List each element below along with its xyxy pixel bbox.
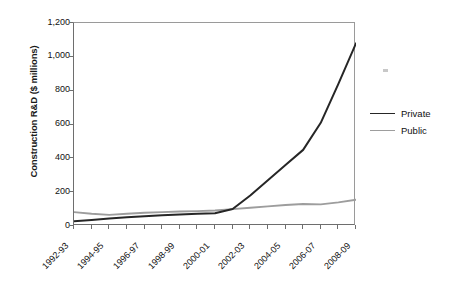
x-tick-mark — [144, 225, 145, 229]
x-tick-mark — [161, 225, 162, 229]
x-tick-mark — [232, 225, 233, 229]
x-tick-mark — [214, 225, 215, 229]
y-tick-label: 0 — [24, 221, 70, 230]
x-tick-mark — [126, 225, 127, 229]
x-tick-label: 2006-07 — [287, 241, 317, 271]
legend-item-private: Private — [370, 105, 455, 122]
x-tick-mark — [73, 225, 74, 229]
x-tick-label: 1992-93 — [40, 241, 70, 271]
x-tick-mark — [267, 225, 268, 229]
x-tick-label: 2004-05 — [252, 241, 282, 271]
x-tick-label: 1994-95 — [75, 241, 105, 271]
x-tick-mark — [320, 225, 321, 229]
x-tick-label: 1996-97 — [111, 241, 141, 271]
plot-area — [73, 22, 355, 225]
x-tick-mark — [196, 225, 197, 229]
x-tick-mark — [179, 225, 180, 229]
y-tick-label: 1,000 — [24, 51, 70, 60]
x-tick-mark — [285, 225, 286, 229]
legend-swatch-public-icon — [370, 130, 395, 131]
y-tick-label: 1,200 — [24, 18, 70, 27]
line-chart: Construction R&D ($ millions) 0200400600… — [0, 0, 455, 292]
legend-swatch-private-icon — [370, 113, 395, 114]
plot-lines — [74, 23, 356, 226]
x-tick-label: 2000-01 — [181, 241, 211, 271]
legend-label-private: Private — [401, 109, 431, 119]
y-tick-label: 600 — [24, 119, 70, 128]
x-tick-label: 1998-99 — [146, 241, 176, 271]
x-tick-mark — [337, 225, 338, 229]
x-tick-mark — [108, 225, 109, 229]
legend-label-public: Public — [401, 126, 427, 136]
x-tick-label: 2008-09 — [322, 241, 352, 271]
scan-artifact — [383, 69, 388, 72]
x-tick-label: 2002-03 — [216, 241, 246, 271]
y-tick-label: 400 — [24, 153, 70, 162]
y-tick-label: 800 — [24, 85, 70, 94]
x-tick-mark — [302, 225, 303, 229]
series-line-private — [74, 43, 356, 221]
x-tick-mark — [91, 225, 92, 229]
legend-item-public: Public — [370, 122, 455, 139]
chart-legend: Private Public — [370, 105, 455, 139]
x-tick-mark — [249, 225, 250, 229]
y-axis-title: Construction R&D ($ millions) — [28, 17, 39, 207]
x-tick-mark — [355, 225, 356, 229]
y-tick-label: 200 — [24, 187, 70, 196]
